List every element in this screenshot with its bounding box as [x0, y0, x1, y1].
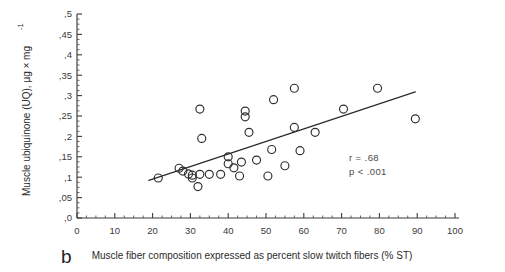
figure-panel-b: 0102030405060708090100,0,05,1,15,2,25,3,…	[0, 0, 505, 272]
stat-pvalue: p < .001	[349, 166, 387, 177]
y-tick-label: ,2	[64, 131, 72, 142]
data-point	[196, 170, 204, 178]
data-point	[290, 84, 298, 92]
x-tick-label: 30	[185, 225, 196, 236]
y-tick-label: ,0	[64, 212, 72, 223]
data-point	[264, 172, 272, 180]
x-tick-label: 10	[110, 225, 121, 236]
y-axis-title: Muscle ubiquinone (UQ), µg × mg	[21, 46, 32, 196]
data-point	[205, 170, 213, 178]
data-point	[290, 123, 298, 131]
panel-letter: b	[61, 246, 72, 267]
y-tick-label: ,45	[59, 29, 72, 40]
data-point	[311, 128, 319, 136]
y-tick-label: ,15	[59, 151, 72, 162]
y-tick-label: ,5	[64, 8, 72, 19]
data-point	[296, 147, 304, 155]
x-tick-label: 100	[447, 225, 463, 236]
y-tick-label: ,25	[59, 110, 72, 121]
data-point	[268, 145, 276, 153]
data-point	[281, 162, 289, 170]
x-tick-label: 0	[74, 225, 79, 236]
axis-ticks	[77, 14, 455, 218]
y-tick-label: ,35	[59, 70, 72, 81]
data-point	[236, 172, 244, 180]
x-tick-label: 60	[299, 225, 310, 236]
stat-correlation: r = .68	[349, 152, 379, 163]
scatter-plot: 0102030405060708090100,0,05,1,15,2,25,3,…	[0, 0, 505, 272]
data-point	[198, 134, 206, 142]
data-point	[374, 84, 382, 92]
data-point	[245, 128, 253, 136]
y-tick-label: ,3	[64, 90, 72, 101]
data-point	[411, 115, 419, 123]
x-tick-label: 50	[261, 225, 272, 236]
data-point	[196, 105, 204, 113]
x-tick-label: 40	[223, 225, 234, 236]
y-tick-label: ,1	[64, 172, 72, 183]
y-axis-title-exponent: -1	[16, 23, 25, 30]
y-tick-label: ,05	[59, 192, 72, 203]
data-point	[339, 105, 347, 113]
y-tick-label: ,4	[64, 49, 72, 60]
x-tick-label: 70	[336, 225, 347, 236]
x-tick-label: 90	[412, 225, 423, 236]
data-point	[241, 113, 249, 121]
data-point	[270, 96, 278, 104]
axis-tick-labels: 0102030405060708090100,0,05,1,15,2,25,3,…	[59, 8, 463, 236]
x-axis-title: Muscle fiber composition expressed as pe…	[92, 250, 413, 261]
data-point	[230, 164, 238, 172]
x-tick-label: 80	[374, 225, 385, 236]
data-point	[194, 183, 202, 191]
data-point	[253, 156, 261, 164]
data-point	[237, 158, 245, 166]
axes	[77, 14, 459, 218]
data-point	[217, 170, 225, 178]
x-tick-label: 20	[147, 225, 158, 236]
